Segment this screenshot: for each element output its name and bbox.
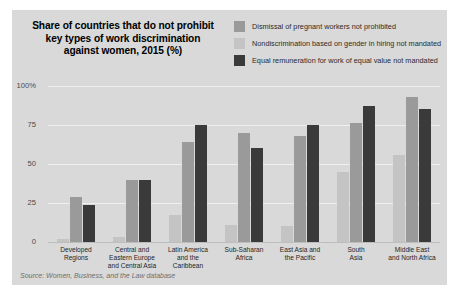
x-axis-label-line: and Central Asia <box>105 262 159 270</box>
bar[interactable] <box>251 148 263 242</box>
bar-group <box>272 86 328 242</box>
y-axis-tick-label: 50 <box>0 159 36 168</box>
bar-group <box>48 86 104 242</box>
plot-area: 0255075100% <box>48 86 440 242</box>
legend-item[interactable]: Equal remuneration for work of equal val… <box>234 53 446 68</box>
x-axis-label-line: Developed <box>49 246 103 254</box>
bar[interactable] <box>393 155 405 242</box>
bar[interactable] <box>70 197 82 242</box>
source-note: Source: Women, Business, and the Law dat… <box>20 272 175 279</box>
bar[interactable] <box>225 225 237 242</box>
x-axis-label-line: Sub-Saharan <box>217 246 271 254</box>
x-axis-label-line: Regions <box>49 254 103 262</box>
bar[interactable] <box>363 106 375 242</box>
bar-groups <box>48 86 440 242</box>
bar[interactable] <box>83 205 95 242</box>
bar[interactable] <box>350 123 362 242</box>
x-axis-label-line: Africa <box>217 254 271 262</box>
bar[interactable] <box>307 125 319 242</box>
chart-panel: Share of countries that do not prohibitk… <box>12 10 447 285</box>
bar[interactable] <box>182 142 194 242</box>
x-axis-label-line: and the Caribbean <box>161 254 215 270</box>
chart-title-line-1: key types of work discrimination <box>18 33 228 46</box>
chart-title: Share of countries that do not prohibitk… <box>18 20 228 58</box>
legend-item[interactable]: Nondiscrimination based on gender in hir… <box>234 36 446 51</box>
x-axis-label: SouthAsia <box>328 246 384 270</box>
legend-swatch-icon <box>234 21 245 32</box>
bar[interactable] <box>419 109 431 242</box>
bar-group <box>104 86 160 242</box>
bar-group <box>216 86 272 242</box>
x-axis-label: Central andEastern Europeand Central Asi… <box>104 246 160 270</box>
bar[interactable] <box>406 97 418 242</box>
bar-group <box>384 86 440 242</box>
chart-legend: Dismissal of pregnant workers not prohib… <box>234 19 446 70</box>
bar[interactable] <box>337 172 349 242</box>
x-axis-label-line: Central and <box>105 246 159 254</box>
x-axis-label-line: Eastern Europe <box>105 254 159 262</box>
x-axis-label: East Asia andthe Pacific <box>272 246 328 270</box>
legend-label: Dismissal of pregnant workers not prohib… <box>252 21 396 32</box>
bar[interactable] <box>195 125 207 242</box>
bar[interactable] <box>294 136 306 242</box>
bar[interactable] <box>139 180 151 242</box>
x-axis-label: DevelopedRegions <box>48 246 104 270</box>
chart-title-line-2: against women, 2015 (%) <box>18 45 228 58</box>
y-axis-tick-label: 75 <box>0 120 36 129</box>
x-axis-labels: DevelopedRegionsCentral andEastern Europ… <box>48 246 440 270</box>
legend-label: Equal remuneration for work of equal val… <box>252 55 438 66</box>
y-axis-tick-label: 100% <box>0 81 36 90</box>
bar[interactable] <box>281 226 293 242</box>
x-axis-label-line: East Asia and <box>273 246 327 254</box>
chart-title-line-0: Share of countries that do not prohibit <box>18 20 228 33</box>
y-axis-tick-label: 0 <box>0 237 36 246</box>
bar-group <box>160 86 216 242</box>
legend-label: Nondiscrimination based on gender in hir… <box>252 38 441 49</box>
x-axis-label: Middle Eastand North Africa <box>384 246 440 270</box>
bar-group <box>328 86 384 242</box>
x-axis-label-line: South <box>329 246 383 254</box>
y-axis-tick-label: 25 <box>0 198 36 207</box>
x-axis-label: Latin Americaand the Caribbean <box>160 246 216 270</box>
legend-swatch-icon <box>234 55 245 66</box>
x-axis-label-line: Latin America <box>161 246 215 254</box>
axis-baseline <box>48 242 440 243</box>
legend-swatch-icon <box>234 38 245 49</box>
x-axis-label-line: Middle East <box>385 246 439 254</box>
chart-header: Share of countries that do not prohibitk… <box>12 10 447 72</box>
x-axis-label-line: and North Africa <box>385 254 439 262</box>
x-axis-label-line: the Pacific <box>273 254 327 262</box>
x-axis-label: Sub-SaharanAfrica <box>216 246 272 270</box>
legend-item[interactable]: Dismissal of pregnant workers not prohib… <box>234 19 446 34</box>
x-axis-label-line: Asia <box>329 254 383 262</box>
bar[interactable] <box>126 180 138 242</box>
bar[interactable] <box>169 215 181 242</box>
bar[interactable] <box>238 133 250 242</box>
